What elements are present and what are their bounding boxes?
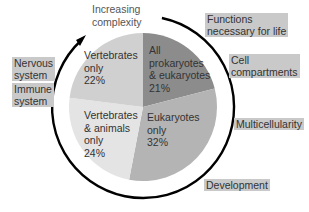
label-all-prokaryotes-eukaryotes: All prokaryotes & eukaryotes 21% xyxy=(149,44,210,94)
label-vertebrates-animals-only: Vertebrates & animals only 24% xyxy=(84,109,138,159)
tag-development: Development xyxy=(204,179,270,191)
title-increasing-complexity: Increasing complexity xyxy=(92,3,142,29)
tag-immune-system: Immune system xyxy=(12,83,54,107)
tag-nervous-system: Nervous system xyxy=(12,57,55,81)
tag-functions-necessary-for-life: Functions necessary for life xyxy=(205,13,288,37)
label-eukaryotes-only: Eukaryotes only 32% xyxy=(147,111,200,149)
tag-multicellularity: Multicellularity xyxy=(234,118,304,130)
tag-cell-compartments: Cell compartments xyxy=(229,54,300,78)
label-vertebrates-only: Vertebrates only 22% xyxy=(84,49,138,87)
